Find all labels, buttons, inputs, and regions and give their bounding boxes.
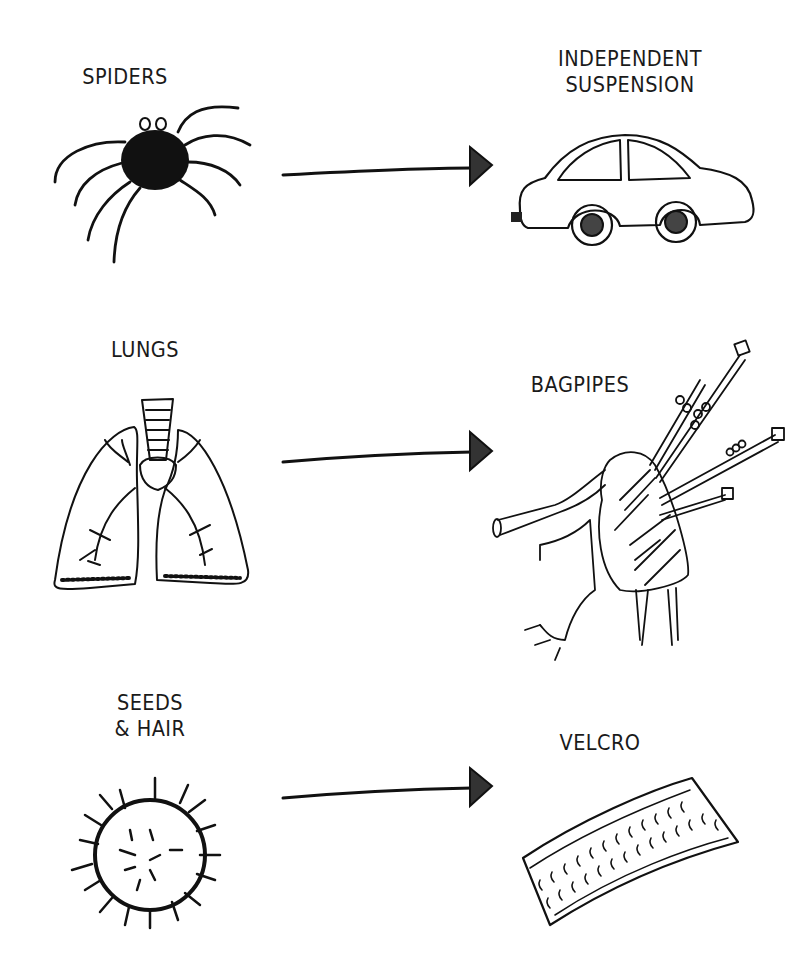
burr-seed-icon — [72, 778, 220, 928]
bagpipes-icon — [493, 340, 784, 660]
velcro-icon — [523, 778, 738, 925]
arrow-right-icon — [283, 147, 492, 185]
arrow-right-icon — [283, 432, 492, 470]
lungs-icon — [54, 399, 248, 589]
arrow-right-icon — [283, 768, 492, 806]
spider-icon — [55, 107, 250, 262]
car-icon — [511, 135, 754, 245]
diagram-canvas — [0, 0, 796, 968]
